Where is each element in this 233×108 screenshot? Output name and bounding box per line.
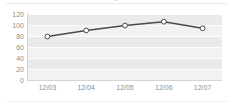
chart-title-text: Report [103,0,130,1]
y-axis-tick-label: 80 [16,33,24,40]
x-axis-tick-label: 12/04 [77,84,95,92]
x-axis: 12/0312/0412/0512/0612/07 [28,84,222,96]
y-axis-tick-label: 120 [12,11,24,18]
y-axis-tick-label: 60 [16,44,24,51]
y-axis: 020406080100120 [0,14,28,80]
data-point-marker[interactable]: 12/05: 99 [123,23,128,28]
plot-area: 12/03: 7912/04: 9012/05: 9912/06: 10612/… [28,14,222,80]
bottom-divider [6,101,227,102]
y-axis-tick-label: 20 [16,66,24,73]
y-axis-tick-label: 100 [12,22,24,29]
x-axis-tick-label: 12/03 [39,84,57,92]
series-line: 12/03: 7912/04: 9012/05: 9912/06: 10612/… [28,14,222,80]
x-axis-line [27,80,222,81]
data-point-marker[interactable]: 12/04: 90 [84,28,89,33]
top-divider [6,3,227,4]
y-axis-tick-label: 0 [20,77,24,84]
x-axis-tick-label: 12/05 [116,84,134,92]
line-chart-widget: Report 020406080100120 12/03: 7912/04: 9… [0,0,233,108]
x-axis-tick-label: 12/06 [155,84,173,92]
y-axis-tick-label: 40 [16,55,24,62]
data-point-marker[interactable]: 12/03: 79 [45,34,50,39]
x-axis-tick-label: 12/07 [194,84,212,92]
data-point-marker[interactable]: 12/06: 106 [161,19,166,24]
data-point-marker[interactable]: 12/07: 94 [200,26,205,31]
